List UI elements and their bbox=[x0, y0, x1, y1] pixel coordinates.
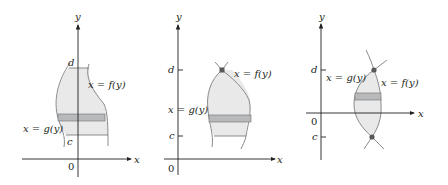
intersection-point-top bbox=[371, 67, 376, 72]
y-axis-label: y bbox=[175, 11, 182, 22]
intersection-point bbox=[220, 68, 225, 73]
lower-bound-label: c bbox=[312, 131, 318, 142]
x-axis-label: x bbox=[277, 154, 283, 165]
panel-1: y x 0 d c x = f(y) x = g(y) bbox=[22, 11, 140, 177]
curve-g-label: x = g(y) bbox=[168, 104, 208, 115]
curve-f-label: x = f(y) bbox=[381, 77, 419, 88]
y-axis-label: y bbox=[318, 11, 325, 22]
panel-2: y x 0 d c x = f(y) x = g(y) bbox=[164, 11, 283, 175]
upper-bound-label: d bbox=[168, 64, 174, 75]
origin-label: 0 bbox=[68, 161, 74, 172]
intersection-point-bottom bbox=[369, 134, 374, 139]
shaded-region bbox=[208, 70, 251, 136]
approx-strip bbox=[355, 93, 381, 100]
panel-3: y x 0 d c x = f(y) x = g(y) bbox=[306, 11, 424, 160]
approx-strip bbox=[58, 114, 105, 121]
upper-bound-label: d bbox=[68, 57, 74, 68]
curve-f-label: x = f(y) bbox=[234, 68, 272, 79]
curve-g-label: x = g(y) bbox=[23, 123, 63, 134]
curve-f-label: x = f(y) bbox=[88, 79, 126, 90]
origin-label: 0 bbox=[168, 163, 174, 174]
curve-g-label: x = g(y) bbox=[326, 72, 366, 83]
lower-bound-label: c bbox=[169, 130, 175, 141]
y-axis-label: y bbox=[74, 11, 81, 22]
x-axis-label: x bbox=[134, 154, 140, 165]
upper-bound-label: d bbox=[311, 64, 317, 75]
approx-strip bbox=[209, 115, 251, 122]
area-between-curves-diagram: y x 0 d c x = f(y) x = g(y) y x 0 d c x … bbox=[0, 0, 448, 185]
x-axis-label: x bbox=[418, 108, 424, 119]
lower-bound-label: c bbox=[67, 136, 73, 147]
origin-label: 0 bbox=[311, 116, 317, 127]
